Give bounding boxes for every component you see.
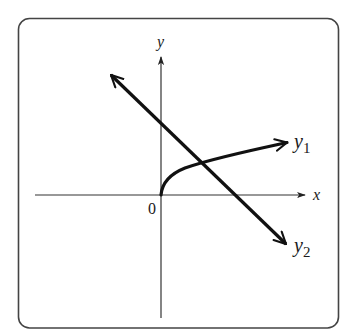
y-axis-label: y	[155, 33, 165, 51]
x-axis-label: x	[312, 186, 320, 203]
diagram-frame	[19, 19, 339, 329]
origin-label: 0	[148, 200, 156, 217]
function-graph-diagram: y x 0 y1 y2	[0, 0, 343, 334]
